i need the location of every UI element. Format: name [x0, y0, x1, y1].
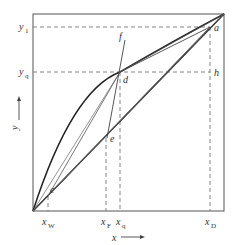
point-label-e: e: [110, 133, 115, 144]
point-label-f: f: [119, 31, 123, 42]
svg-text:1: 1: [25, 27, 29, 35]
xD-label: x D: [204, 216, 216, 230]
chord-origin-to-d: [33, 72, 120, 211]
svg-text:D: D: [211, 222, 216, 230]
svg-text:y: y: [18, 21, 24, 32]
svg-text:x: x: [204, 216, 210, 227]
xq-label: x q: [115, 216, 126, 230]
chord-d-to-c-outer: [120, 14, 224, 72]
point-label-c: c: [50, 184, 55, 195]
svg-text:x: x: [111, 232, 117, 243]
svg-text:F: F: [107, 222, 111, 230]
xF-label: x F: [100, 216, 111, 230]
svg-text:q: q: [122, 222, 126, 230]
svg-text:x: x: [100, 216, 106, 227]
point-label-a: a: [214, 22, 219, 33]
y-axis-title: y: [9, 96, 21, 131]
svg-text:y: y: [18, 66, 24, 77]
svg-text:x: x: [41, 216, 47, 227]
yq-label: y q: [18, 66, 29, 80]
point-label-h: h: [214, 67, 219, 78]
svg-text:y: y: [9, 125, 20, 131]
mccabe-thiele-diagram: a d h e c f y 1 y q x W x F x q x D x y: [0, 0, 238, 245]
y1-label: y 1: [18, 21, 29, 35]
rectifying-operating-line: [120, 27, 210, 72]
svg-text:W: W: [48, 222, 55, 230]
x-axis-title: x: [111, 232, 145, 243]
point-label-d: d: [123, 74, 129, 85]
svg-text:x: x: [115, 216, 121, 227]
svg-text:q: q: [25, 72, 29, 80]
xW-label: x W: [41, 216, 55, 230]
chord-origin-to-e: [33, 27, 210, 211]
